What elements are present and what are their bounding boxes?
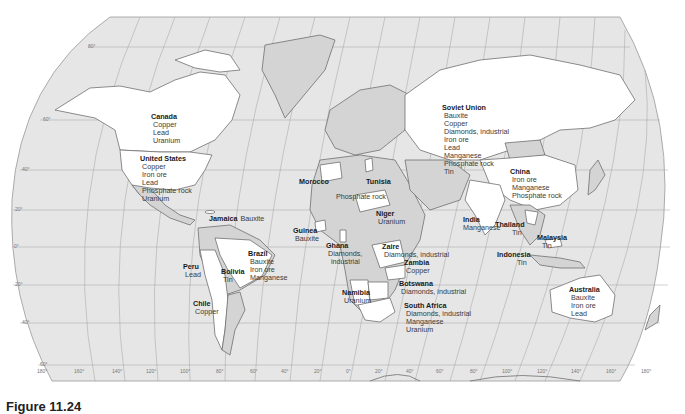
lon-label: 20°: [314, 368, 322, 374]
label-canada: Canada Copper Lead Uranium: [151, 113, 180, 145]
lat-label: 60°: [43, 116, 51, 122]
lon-label: 60°: [250, 368, 258, 374]
label-niger: Niger Uranium: [376, 210, 405, 226]
lon-label: 160°: [74, 368, 84, 374]
label-australia: Australia Bauxite Iron ore Lead: [569, 286, 600, 318]
lon-label: 0°: [346, 368, 351, 374]
lat-label: 0°: [14, 243, 19, 249]
label-thailand: Thailand Tin: [495, 221, 525, 237]
label-botswana: Botswana Diamonds, industrial: [399, 280, 466, 296]
lat-label: 60°: [40, 361, 48, 367]
label-namibia: Namibia Uranium: [342, 289, 371, 305]
lon-label: 80°: [216, 368, 224, 374]
lon-label: 100°: [502, 368, 512, 374]
label-brazil: Brazil Bauxite Iron ore Manganese: [248, 250, 288, 282]
lon-label: 100°: [180, 368, 190, 374]
label-china: China Iron ore Manganese Phosphate rock: [510, 168, 562, 200]
lon-label: 40°: [406, 368, 414, 374]
lon-label: 140°: [571, 368, 581, 374]
lon-label: 160°: [606, 368, 616, 374]
label-tunisia: Tunisia: [366, 178, 391, 186]
label-morocco: Morocco: [299, 178, 329, 186]
label-phosphate-rock-shared: Phosphate rock: [334, 193, 386, 201]
lon-label: 140°: [112, 368, 122, 374]
label-united-states: United States Copper Iron ore Lead Phosp…: [140, 155, 192, 203]
label-indonesia: Indonesia Tin: [497, 251, 531, 267]
figure-caption: Figure 11.24: [6, 399, 81, 414]
label-zambia: Zambia Copper: [404, 259, 430, 275]
lon-label: 180°: [641, 368, 651, 374]
label-chile: Chile Copper: [193, 300, 219, 316]
land-zambia: [385, 265, 405, 280]
label-bolivia: Bolivia Tin: [221, 268, 245, 284]
lon-label: 20°: [375, 368, 383, 374]
label-peru: Peru Lead: [183, 263, 201, 279]
land-tunisia: [365, 158, 373, 172]
lon-label: 80°: [470, 368, 478, 374]
label-soviet-union: Soviet Union Bauxite Copper Diamonds, in…: [442, 104, 509, 176]
label-ghana: Ghana Diamonds, industrial: [326, 242, 362, 266]
lat-label: 80°: [88, 43, 96, 49]
label-south-africa: South Africa Diamonds, industrial Mangan…: [404, 302, 471, 334]
label-zaire: Zaire Diamonds, industrial: [382, 243, 449, 259]
label-guinea: Guinea Bauxite: [293, 227, 319, 243]
lat-label: 40°: [22, 166, 30, 172]
lat-label: 20°: [15, 281, 23, 287]
lon-label: 40°: [281, 368, 289, 374]
label-malaysia: Malaysia Tin: [537, 234, 567, 250]
lon-label: 60°: [436, 368, 444, 374]
lon-label: 120°: [146, 368, 156, 374]
lat-label: 20°: [15, 206, 23, 212]
lat-label: 40°: [22, 319, 30, 325]
lon-label: 120°: [537, 368, 547, 374]
label-jamaica: JamaicaBauxite: [209, 215, 264, 223]
lon-label: 180°: [37, 368, 47, 374]
